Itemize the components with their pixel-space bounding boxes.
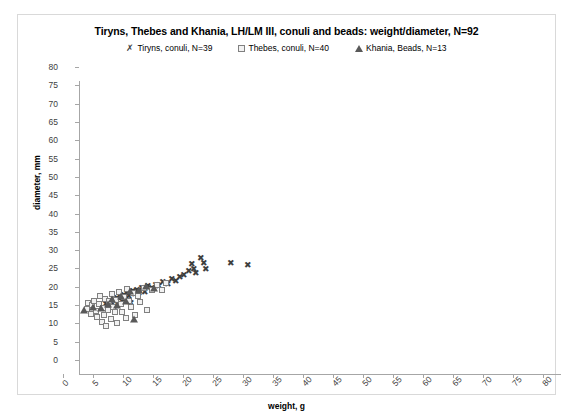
y-tick-label: 65 — [26, 117, 58, 127]
y-tick-label: 50 — [26, 172, 58, 182]
y-tick-mark — [75, 287, 79, 288]
y-tick-label: 60 — [26, 135, 58, 145]
y-axis-label: diameter, mm — [32, 155, 42, 210]
data-point-cross: ✖ — [244, 260, 253, 269]
y-tick-label: 70 — [26, 99, 58, 109]
data-point-square — [123, 315, 129, 321]
y-tick-mark — [75, 250, 79, 251]
legend-item-tiryns[interactable]: ✗ Tiryns, conuli, N=39 — [126, 43, 212, 53]
y-tick-mark — [75, 195, 79, 196]
y-tick-mark — [75, 305, 79, 306]
triangle-marker-icon — [355, 45, 363, 52]
legend-label-tiryns: Tiryns, conuli, N=39 — [137, 43, 212, 53]
y-tick-label: 30 — [26, 245, 58, 255]
y-tick-mark — [75, 104, 79, 105]
y-tick-label: 10 — [26, 318, 58, 328]
chart-container: Tiryns, Thebes and Khania, LH/LM III, co… — [17, 14, 556, 395]
data-point-triangle — [130, 316, 138, 323]
y-tick-label: 0 — [26, 355, 58, 365]
y-tick-mark — [75, 122, 79, 123]
square-marker-icon — [238, 45, 245, 52]
y-tick-label: 40 — [26, 209, 58, 219]
data-point-square — [103, 323, 109, 329]
y-tick-label: 75 — [26, 80, 58, 90]
y-tick-mark — [75, 342, 79, 343]
data-point-square — [114, 320, 120, 326]
data-point-square — [128, 304, 134, 310]
legend-item-thebes[interactable]: Thebes, conuli, N=40 — [238, 43, 329, 53]
y-tick-label: 55 — [26, 154, 58, 164]
data-point-square — [108, 316, 114, 322]
data-point-square — [163, 280, 169, 286]
data-point-triangle — [113, 302, 121, 309]
chart-title: Tiryns, Thebes and Khania, LH/LM III, co… — [18, 25, 555, 37]
y-tick-mark — [75, 323, 79, 324]
data-point-cross: ✖ — [202, 265, 211, 274]
y-tick-label: 45 — [26, 190, 58, 200]
plot-area: ✖✖✖✖✖✖✖✖✖✖✖✖✖✖✖✖✖✖✖✖✖✖✖✖✖✖✖✖✖✖✖✖✖✖✖✖✖✖✖ — [80, 81, 560, 374]
y-tick-mark — [75, 67, 79, 68]
y-tick-label: 35 — [26, 227, 58, 237]
y-tick-mark — [75, 85, 79, 86]
data-point-square — [135, 293, 141, 299]
data-point-triangle — [80, 306, 88, 313]
x-tick-label: 5 — [90, 378, 100, 388]
y-tick-label: 80 — [26, 62, 58, 72]
legend-item-khania[interactable]: Khania, Beads, N=13 — [355, 43, 447, 53]
data-point-cross: ✖ — [227, 258, 236, 267]
data-point-triangle — [89, 303, 97, 310]
x-axis-label: weight, g — [18, 401, 555, 411]
legend-label-khania: Khania, Beads, N=13 — [366, 43, 447, 53]
y-tick-mark — [75, 214, 79, 215]
data-point-triangle — [142, 283, 150, 290]
data-point-triangle — [122, 297, 130, 304]
y-tick-label: 15 — [26, 300, 58, 310]
data-point-triangle — [126, 288, 134, 295]
data-point-triangle — [150, 285, 158, 292]
legend-label-thebes: Thebes, conuli, N=40 — [248, 43, 329, 53]
y-tick-mark — [75, 140, 79, 141]
y-tick-mark — [75, 232, 79, 233]
cross-marker-icon: ✗ — [126, 44, 134, 53]
y-tick-label: 25 — [26, 263, 58, 273]
data-point-cross: ✖ — [192, 268, 201, 277]
x-tick-label: 0 — [60, 378, 70, 388]
data-point-square — [159, 287, 165, 293]
y-tick-mark — [75, 360, 79, 361]
data-point-square — [112, 309, 118, 315]
y-tick-label: 20 — [26, 282, 58, 292]
data-point-square — [137, 299, 143, 305]
y-tick-mark — [75, 177, 79, 178]
chart-legend: ✗ Tiryns, conuli, N=39 Thebes, conuli, N… — [18, 43, 555, 53]
data-point-square — [101, 312, 107, 318]
y-tick-mark — [75, 268, 79, 269]
y-tick-label: 5 — [26, 337, 58, 347]
data-point-square — [144, 307, 150, 313]
y-tick-mark — [75, 159, 79, 160]
